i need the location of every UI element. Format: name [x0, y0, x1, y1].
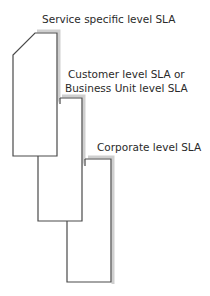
customer-level-label-line2: Business Unit level SLA [65, 82, 188, 95]
customer-level-label-line1: Customer level SLA or [68, 68, 185, 81]
service-level-label: Service specific level SLA [42, 13, 175, 26]
service-level-block [13, 33, 57, 156]
corporate-level-label: Corporate level SLA [97, 141, 201, 154]
